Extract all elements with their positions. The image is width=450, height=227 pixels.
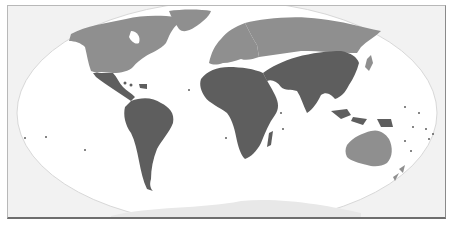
world-map	[8, 6, 446, 219]
map-frame	[7, 5, 446, 219]
